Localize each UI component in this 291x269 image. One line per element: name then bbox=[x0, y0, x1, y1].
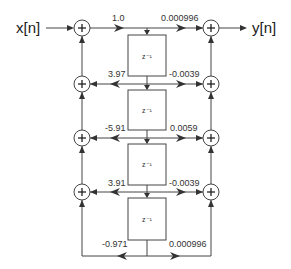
arrow-icon bbox=[196, 189, 203, 195]
output-label: y[n] bbox=[252, 19, 276, 36]
arrow-icon bbox=[196, 25, 203, 31]
adder-right-3 bbox=[203, 184, 219, 200]
arrow-icon bbox=[208, 92, 214, 99]
arrow-icon bbox=[196, 81, 203, 87]
delay-label-3: z⁻¹ bbox=[142, 161, 153, 168]
arrow-icon bbox=[208, 36, 214, 43]
arrow-icon bbox=[144, 85, 150, 90]
arrow-icon bbox=[144, 193, 150, 198]
arrow-icon bbox=[90, 81, 97, 87]
arrow-icon bbox=[79, 146, 85, 153]
coef-a1: -0.0039 bbox=[169, 69, 200, 79]
delay-label-2: z⁻¹ bbox=[142, 107, 153, 114]
coef-b0: 1.0 bbox=[112, 13, 125, 23]
adder-left-2 bbox=[74, 130, 90, 146]
adder-left-1 bbox=[74, 76, 90, 92]
arrow-icon bbox=[240, 25, 247, 31]
arrow-icon bbox=[144, 139, 150, 144]
arrow-icon bbox=[208, 200, 214, 207]
coef-b3: 3.91 bbox=[108, 178, 126, 188]
filter-block-diagram: x[n] 1.0 0.000996 y[n] z⁻¹ 3.97 -0.0039 … bbox=[0, 0, 291, 269]
arrow-icon bbox=[90, 189, 97, 195]
arrow-icon bbox=[144, 30, 150, 35]
delay-label-4: z⁻¹ bbox=[142, 216, 153, 223]
adder-right-0 bbox=[203, 20, 219, 36]
arrow-icon bbox=[79, 200, 85, 207]
coef-a2: 0.0059 bbox=[170, 123, 198, 133]
arrow-icon bbox=[79, 36, 85, 43]
adder-left-3 bbox=[74, 184, 90, 200]
arrow-icon bbox=[90, 135, 97, 141]
arrow-icon bbox=[208, 146, 214, 153]
adder-right-1 bbox=[203, 76, 219, 92]
arrow-icon bbox=[79, 92, 85, 99]
adder-right-2 bbox=[203, 130, 219, 146]
arrow-icon bbox=[67, 25, 74, 31]
coef-a0: 0.000996 bbox=[161, 13, 199, 23]
adder-left-0 bbox=[74, 20, 90, 36]
coef-a3: -0.0039 bbox=[169, 178, 200, 188]
input-label: x[n] bbox=[16, 19, 40, 36]
arrow-icon bbox=[196, 135, 203, 141]
coef-b1: 3.97 bbox=[108, 69, 126, 79]
coef-b2: -5.91 bbox=[105, 123, 126, 133]
delay-label-1: z⁻¹ bbox=[142, 53, 153, 60]
coef-b4: -0.971 bbox=[102, 239, 128, 249]
coef-a4: 0.000996 bbox=[169, 239, 207, 249]
